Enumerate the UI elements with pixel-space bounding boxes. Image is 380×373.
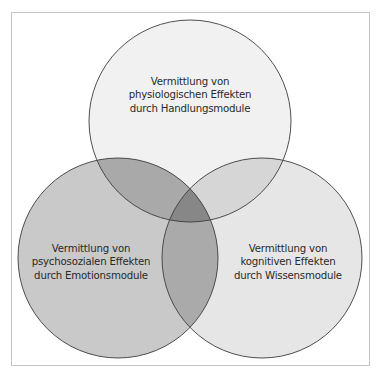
label-left-line-1: Vermittlung von	[11, 242, 171, 255]
label-left-line-2: psychosozialen Effekten	[11, 255, 171, 268]
venn-diagram	[0, 0, 380, 373]
label-left-line-3: durch Emotionsmodule	[11, 269, 171, 282]
label-right-line-3: durch Wissensmodule	[208, 269, 368, 282]
label-top-line-2: physiologischen Effekten	[110, 88, 270, 101]
label-right-line-1: Vermittlung von	[208, 242, 368, 255]
label-right: Vermittlung von kognitiven Effekten durc…	[208, 242, 368, 282]
label-top: Vermittlung von physiologischen Effekten…	[110, 75, 270, 115]
label-top-line-1: Vermittlung von	[110, 75, 270, 88]
label-top-line-3: durch Handlungsmodule	[110, 102, 270, 115]
label-right-line-2: kognitiven Effekten	[208, 255, 368, 268]
label-left: Vermittlung von psychosozialen Effekten …	[11, 242, 171, 282]
